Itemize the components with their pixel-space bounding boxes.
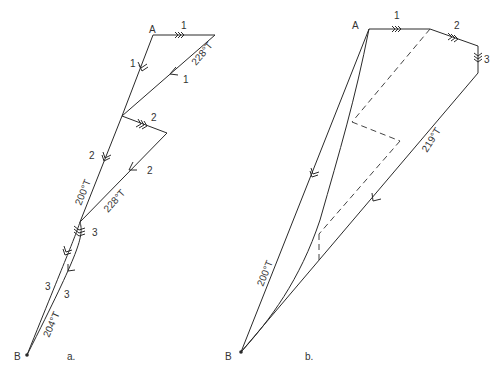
tide-vector-2 [122,116,167,133]
course2-label: 2 [89,150,95,161]
diagram-a: A 1 1 1 228°T 2 2 2 200°T 228°T 3 3 3 20… [14,20,215,362]
course-vector-1 [122,35,153,116]
track1-label: 1 [183,74,189,85]
course-vector-3 [27,222,80,355]
tide3-label: 3 [484,54,490,65]
bearing-track-label: 219°T [419,126,443,155]
track-vector-2 [80,133,167,222]
point-a-label: A [149,24,156,35]
double-arrow-icon [310,168,319,177]
caption-a: a. [67,351,75,362]
arrow-icon [129,162,137,170]
tide1-label: 1 [181,20,187,31]
course1-label: 1 [130,58,136,69]
course-vector [241,29,369,352]
track2-label: 2 [147,165,153,176]
course3-label: 3 [45,281,51,292]
tide1-label: 1 [394,10,400,21]
tide2-label: 2 [454,20,460,31]
bearing2-track-label: 228°T [101,187,127,214]
construction-line [319,141,400,234]
point-b-dot [25,353,29,357]
point-b-label: B [14,351,21,362]
triple-arrow-icon [136,119,147,129]
caption-b: b. [305,351,313,362]
bearing2-course-label: 200°T [73,178,93,207]
point-a-label: A [352,20,359,31]
track3-label: 3 [64,289,70,300]
point-b-dot [239,350,243,354]
tide2-label: 2 [151,112,157,123]
construction-line [352,122,400,141]
double-arrow-icon [102,152,111,161]
point-b-label: B [225,351,232,362]
diagram-b: A 1 2 3 219°T 200°T B b. [225,10,490,362]
bearing1-label: 228°T [189,40,215,68]
track-vector [241,73,478,352]
arrow-icon [372,193,381,201]
tidal-vector-diagrams: A 1 1 1 228°T 2 2 2 200°T 228°T 3 3 3 20… [0,0,501,380]
tide3-label: 3 [92,227,98,238]
